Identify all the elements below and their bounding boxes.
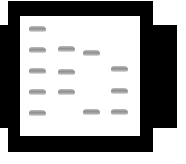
band-lane-1 <box>29 26 46 32</box>
band-lane-1 <box>29 89 46 95</box>
gel-slab <box>20 16 140 136</box>
band-lane-4 <box>111 109 128 115</box>
electrode-tab-right <box>152 25 177 128</box>
band-lane-3 <box>83 50 100 56</box>
band-lane-4 <box>111 66 128 72</box>
band-lane-3 <box>83 109 100 115</box>
band-lane-4 <box>111 88 128 94</box>
band-lane-1 <box>29 47 46 53</box>
band-lane-2 <box>58 46 75 52</box>
band-lane-2 <box>58 69 75 75</box>
band-lane-1 <box>29 110 46 116</box>
band-lane-2 <box>58 89 75 95</box>
band-lane-1 <box>29 68 46 74</box>
